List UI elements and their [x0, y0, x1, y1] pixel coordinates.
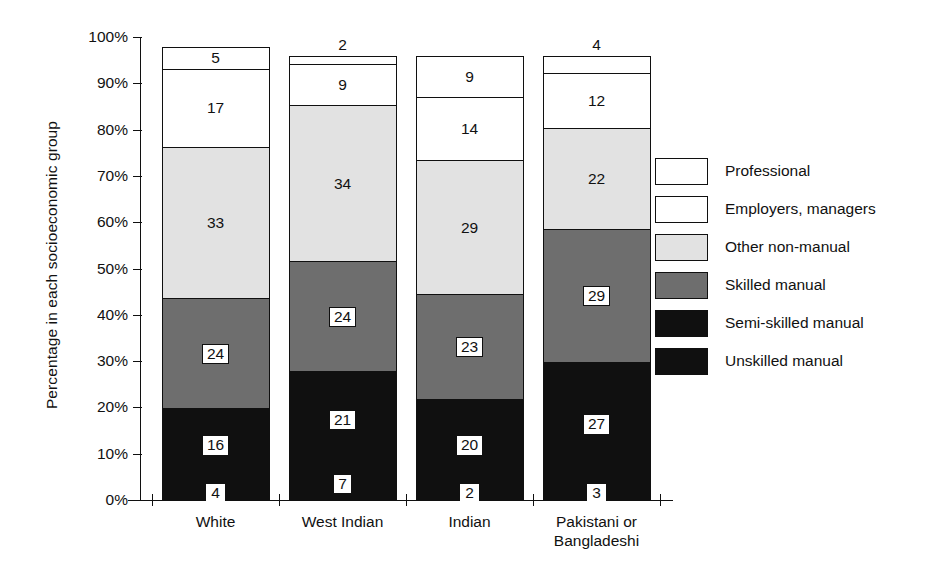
- bar-segment-value: 22: [588, 171, 605, 187]
- y-tick-mark: [133, 37, 142, 38]
- bar-segment-value: 33: [207, 215, 224, 231]
- bar-stack[interactable]: 3272922124: [543, 37, 651, 500]
- x-tick-mark: [152, 494, 153, 506]
- bar-segment-value: 23: [456, 337, 483, 358]
- bar-segment[interactable]: 2: [416, 491, 524, 500]
- y-tick-label: 90%: [68, 74, 128, 92]
- legend-item[interactable]: Professional: [655, 152, 920, 190]
- y-tick-label: 60%: [68, 213, 128, 231]
- bar-segment-value: 20: [456, 435, 483, 456]
- bar-stack[interactable]: 721243492: [289, 37, 397, 500]
- y-axis-title: Percentage in each socioeconomic group: [43, 65, 61, 465]
- bar-segment-value: 24: [202, 344, 229, 365]
- legend-swatch: [655, 310, 708, 337]
- bar-segment[interactable]: 12: [543, 73, 651, 129]
- bar-segment-value: 4: [587, 37, 606, 53]
- bar-stack[interactable]: 4162433175: [162, 37, 270, 500]
- x-tick-mark: [533, 494, 534, 506]
- bar-segment[interactable]: 22: [543, 128, 651, 230]
- bar-segment-value: 7: [333, 474, 352, 495]
- bar-segment[interactable]: 34: [289, 105, 397, 262]
- y-tick-label: 50%: [68, 260, 128, 278]
- x-axis-category-line: Bangladeshi: [522, 531, 672, 550]
- bar-segment[interactable]: 17: [162, 69, 270, 148]
- bar-segment-value: 9: [465, 69, 474, 85]
- bar-segment[interactable]: 7: [289, 468, 397, 500]
- bar-segment[interactable]: 9: [416, 56, 524, 98]
- y-tick-mark: [133, 454, 142, 455]
- y-tick-label: 20%: [68, 398, 128, 416]
- bar-segment-value: 29: [583, 286, 610, 307]
- bar-segment[interactable]: 5: [162, 47, 270, 70]
- bar-segment-value: 3: [586, 483, 607, 502]
- bar-segment-value: 16: [202, 435, 229, 456]
- bar-segment-value: 12: [588, 93, 605, 109]
- legend-item[interactable]: Employers, managers: [655, 190, 920, 228]
- legend-swatch: [655, 272, 708, 299]
- chart-root: Percentage in each socioeconomic group 0…: [0, 0, 925, 572]
- bar-segment[interactable]: 29: [543, 229, 651, 363]
- bar-segment-value: 14: [461, 121, 478, 137]
- legend-swatch: [655, 234, 708, 261]
- legend-label: Semi-skilled manual: [725, 314, 864, 332]
- y-tick-label: 30%: [68, 352, 128, 370]
- bar-segment[interactable]: 24: [289, 261, 397, 372]
- legend-label: Skilled manual: [725, 276, 826, 294]
- bar-segment-value: 2: [333, 37, 352, 53]
- bar-segment-value: 17: [207, 100, 224, 116]
- y-tick-label: 70%: [68, 167, 128, 185]
- bar-segment[interactable]: 27: [543, 362, 651, 487]
- y-tick-label: 80%: [68, 121, 128, 139]
- bar-stack[interactable]: 2202329149: [416, 37, 524, 500]
- y-tick-mark: [133, 407, 142, 408]
- legend-item[interactable]: Other non-manual: [655, 228, 920, 266]
- plot-area: 416243317572124349222023291493272922124: [152, 37, 660, 500]
- legend-item[interactable]: Semi-skilled manual: [655, 304, 920, 342]
- bar-segment[interactable]: 20: [416, 399, 524, 492]
- bar-segment[interactable]: 4: [543, 56, 651, 75]
- y-tick-mark: [133, 83, 142, 84]
- y-tick-label: 10%: [68, 445, 128, 463]
- y-tick-label: 40%: [68, 306, 128, 324]
- x-tick-mark: [406, 494, 407, 506]
- legend-label: Professional: [725, 162, 810, 180]
- bar-segment-value: 29: [461, 220, 478, 236]
- bar-segment-value: 27: [583, 414, 610, 435]
- y-tick-mark: [133, 222, 142, 223]
- x-axis-category-line: Pakistani or: [522, 512, 672, 531]
- bar-segment-value: 4: [205, 483, 226, 502]
- legend-item[interactable]: Unskilled manual: [655, 342, 920, 380]
- y-tick-mark: [133, 500, 142, 501]
- y-tick-mark: [133, 130, 142, 131]
- y-tick-label: 0%: [68, 491, 128, 509]
- legend-label: Other non-manual: [725, 238, 850, 256]
- legend-swatch: [655, 196, 708, 223]
- x-tick-mark: [279, 494, 280, 506]
- bar-segment[interactable]: 24: [162, 298, 270, 409]
- bar-segment[interactable]: 2: [289, 56, 397, 65]
- bar-segment-value: 34: [334, 176, 351, 192]
- bar-segment[interactable]: 23: [416, 294, 524, 400]
- y-tick-mark: [133, 176, 142, 177]
- y-tick-mark: [133, 315, 142, 316]
- x-tick-mark: [660, 494, 661, 506]
- legend-swatch: [655, 348, 708, 375]
- bar-segment[interactable]: 14: [416, 97, 524, 162]
- chart-legend: ProfessionalEmployers, managersOther non…: [655, 152, 920, 380]
- bar-segment[interactable]: 33: [162, 147, 270, 300]
- bar-segment[interactable]: 29: [416, 160, 524, 294]
- y-tick-mark: [133, 361, 142, 362]
- legend-label: Unskilled manual: [725, 352, 843, 370]
- bar-segment[interactable]: 3: [543, 486, 651, 500]
- x-axis-category-label: Pakistani orBangladeshi: [522, 512, 672, 550]
- bar-segment[interactable]: 9: [289, 64, 397, 106]
- bar-segment[interactable]: 21: [289, 371, 397, 468]
- y-tick-label: 100%: [68, 28, 128, 46]
- bar-segment[interactable]: 4: [162, 481, 270, 500]
- bar-segment-value: 9: [338, 77, 347, 93]
- bar-segment-value: 5: [211, 50, 220, 66]
- bar-segment-value: 2: [459, 483, 480, 502]
- y-tick-mark: [133, 269, 142, 270]
- legend-item[interactable]: Skilled manual: [655, 266, 920, 304]
- bar-segment[interactable]: 16: [162, 408, 270, 482]
